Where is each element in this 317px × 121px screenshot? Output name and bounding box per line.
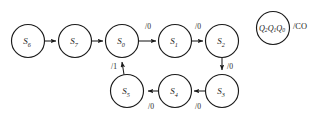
edge-label-s5-s0: /1 (111, 62, 117, 71)
fsm-canvas: /0 /0 /0 /0 /0 /1 S6 S7 (0, 0, 317, 121)
state-node-s1[interactable]: S1 (159, 25, 192, 58)
edge-s5-to-s0 (122, 62, 124, 75)
edge-label-s0-s1: /0 (145, 22, 151, 31)
state-node-s6[interactable]: S6 (12, 25, 45, 58)
state-node-s5[interactable]: S5 (111, 75, 144, 108)
edge-label-s3-s4: /0 (195, 102, 201, 111)
state-node-s2[interactable]: S2 (206, 25, 239, 58)
nodes-group: S6 S7 S0 S1 (12, 25, 239, 108)
edge-label-s4-s5: /0 (148, 102, 154, 111)
state-node-s7[interactable]: S7 (59, 25, 92, 58)
state-diagram: /0 /0 /0 /0 /0 /1 S6 S7 (0, 0, 317, 121)
state-node-s4[interactable]: S4 (159, 75, 192, 108)
edge-label-s1-s2: /0 (195, 22, 201, 31)
legend-output-label: /CO (293, 22, 307, 31)
edge-label-s2-s3: /0 (227, 62, 233, 71)
legend-state-vars: Q2Q1Q0 (259, 24, 285, 34)
state-node-s0[interactable]: S0 (106, 25, 139, 58)
state-encoding-key: Q2Q1Q0 /CO (257, 12, 307, 45)
state-node-s3[interactable]: S3 (206, 75, 239, 108)
